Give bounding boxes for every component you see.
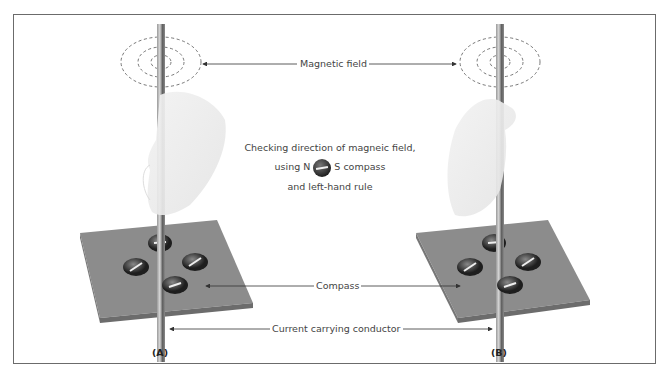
- hand-a: [148, 92, 226, 215]
- center-note-line3: and left-hand rule: [240, 181, 420, 192]
- plate-a: [80, 220, 253, 318]
- center-note-line2: using NS compass: [240, 157, 420, 177]
- setup-b: [416, 24, 590, 362]
- label-magnetic-field: Magnetic field: [298, 58, 369, 69]
- compass-north-label: using N: [275, 161, 311, 172]
- label-conductor: Current carrying conductor: [270, 323, 403, 334]
- center-note-line1: Checking direction of magneic field,: [240, 142, 420, 153]
- compass-icon: [313, 159, 331, 177]
- label-compass: Compass: [314, 280, 361, 291]
- compass-south-label: S compass: [334, 161, 385, 172]
- hand-b: [448, 99, 516, 216]
- panel-label-a: (A): [152, 347, 168, 358]
- panel-label-b: (B): [491, 347, 507, 358]
- setup-a: [80, 24, 253, 362]
- center-note: Checking direction of magneic field, usi…: [240, 142, 420, 192]
